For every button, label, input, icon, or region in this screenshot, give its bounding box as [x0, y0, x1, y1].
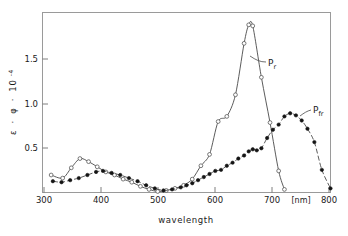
data-point	[259, 75, 263, 79]
y-tick-label-1_5: 1.5	[24, 54, 38, 64]
data-point	[216, 120, 220, 124]
data-point	[185, 184, 188, 187]
data-point	[214, 169, 217, 172]
data-point	[153, 187, 156, 190]
plot-frame	[43, 13, 331, 193]
series-label-pr: Pr	[268, 58, 276, 71]
x-tick-label-500: 500	[150, 195, 166, 205]
data-point	[139, 184, 143, 188]
data-point	[247, 23, 251, 27]
y-axis-title: ε · φ · 10 -4	[7, 69, 18, 135]
chart-canvas: 1.5 1.0 0.5 300 400 500 600 700 800 [nm]…	[0, 0, 348, 236]
x-tick-label-600: 600	[207, 195, 223, 205]
x-tick-label-700: 700	[264, 195, 280, 205]
data-point	[86, 173, 89, 176]
x-axis-title: wavelength	[158, 215, 214, 225]
data-point	[242, 154, 245, 157]
data-point	[313, 140, 316, 143]
series-label-pr-sub: r	[273, 63, 276, 71]
data-point	[260, 147, 263, 150]
y-axis-dot-2: ·	[8, 98, 18, 101]
data-point	[219, 168, 222, 171]
data-point	[61, 176, 65, 180]
data-point	[277, 169, 281, 173]
data-point	[231, 161, 234, 164]
data-point	[68, 178, 71, 181]
data-point	[127, 176, 130, 179]
data-point	[87, 160, 91, 164]
data-point	[49, 173, 53, 177]
series-line-pr	[51, 21, 284, 191]
svg-text:ε · φ: ε · φ · 10 -4	[7, 69, 18, 135]
data-point	[95, 165, 99, 169]
data-point	[283, 188, 287, 192]
data-point	[77, 176, 80, 179]
x-tick-label-400: 400	[93, 195, 109, 205]
data-point	[190, 177, 194, 181]
y-axis-base: 10	[8, 80, 18, 92]
data-point	[147, 188, 151, 192]
x-axis-unit-label: [nm]	[291, 196, 310, 205]
data-point	[191, 182, 194, 185]
data-point	[242, 41, 246, 45]
data-point	[208, 153, 212, 157]
data-point	[130, 180, 134, 184]
data-point	[288, 112, 291, 115]
data-point	[237, 157, 240, 160]
data-point	[136, 179, 139, 182]
data-point	[51, 179, 54, 182]
data-point	[320, 168, 323, 171]
data-point	[60, 181, 63, 184]
x-tick-label-300: 300	[36, 195, 52, 205]
data-point	[94, 170, 97, 173]
data-point	[170, 188, 173, 191]
data-point	[277, 123, 280, 126]
data-point	[271, 128, 274, 131]
data-point	[69, 166, 73, 170]
data-point	[306, 127, 309, 130]
series-label-pfr-sub: fr	[318, 110, 323, 118]
data-point	[247, 150, 250, 153]
data-point	[202, 175, 205, 178]
data-point	[121, 177, 125, 181]
data-point	[101, 169, 104, 172]
data-series-layer	[49, 21, 332, 193]
data-point	[294, 114, 297, 117]
data-point	[234, 93, 238, 97]
data-point	[251, 148, 254, 151]
data-point	[144, 184, 147, 187]
data-point	[300, 119, 303, 122]
y-axis-tickmarks	[43, 59, 49, 148]
y-tick-label-1_0: 1.0	[24, 99, 38, 109]
data-point	[78, 157, 82, 161]
data-point	[156, 190, 160, 194]
data-point	[162, 189, 165, 192]
data-point	[225, 164, 228, 167]
x-tick-label-800: 800	[321, 195, 337, 205]
series-label-pfr: Pfr	[313, 105, 324, 118]
data-point	[329, 187, 332, 190]
data-point	[199, 164, 203, 168]
data-point	[251, 24, 255, 28]
data-point	[179, 186, 182, 189]
y-axis-exponent: -4	[7, 69, 14, 76]
data-point	[283, 115, 286, 118]
data-point	[110, 171, 113, 174]
data-point	[268, 121, 272, 125]
data-point	[119, 173, 122, 176]
y-tick-label-0_5: 0.5	[24, 143, 38, 153]
data-point	[255, 149, 258, 152]
series-pr	[49, 21, 286, 193]
pfr-leader-line	[300, 110, 311, 116]
data-point	[208, 172, 211, 175]
data-point	[225, 114, 229, 118]
data-point	[265, 136, 268, 139]
y-axis-phi: φ	[8, 108, 18, 114]
y-axis-dot-1: ·	[8, 120, 18, 123]
data-point	[196, 178, 199, 181]
y-axis-epsilon: ε	[8, 130, 18, 135]
spectral-absorption-figure: 1.5 1.0 0.5 300 400 500 600 700 800 [nm]…	[0, 0, 348, 236]
